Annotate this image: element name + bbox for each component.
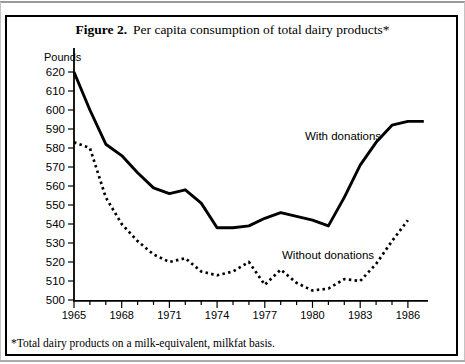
figure-page: Figure 2.Per capita consumption of total…: [0, 0, 465, 364]
figure-title: Figure 2.Per capita consumption of total…: [0, 22, 465, 38]
y-axis-unit-label: Pounds: [44, 51, 81, 63]
page-edge-left: [0, 2, 1, 360]
with-donations-label: With donations: [305, 130, 381, 143]
figure-border: [5, 15, 458, 356]
figure-title-text: Per capita consumption of total dairy pr…: [133, 22, 389, 37]
without-donations-label: Without donations: [282, 249, 374, 262]
figure-number: Figure 2.: [76, 22, 128, 37]
figure-footnote: *Total dairy products on a milk-equivale…: [11, 336, 275, 350]
page-edge-bottom: [0, 360, 465, 362]
page-edge-top: [0, 1, 465, 3]
